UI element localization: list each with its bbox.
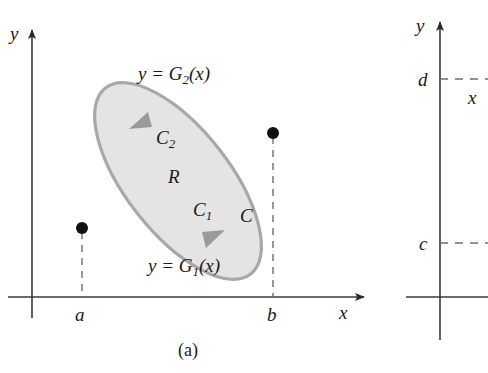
endpoint-dot-left <box>76 222 88 234</box>
region-label-r: R <box>168 167 180 186</box>
panel-a-x-axis-label: x <box>339 303 347 322</box>
equation-upper-boundary: y = G2(x) <box>138 64 210 83</box>
endpoint-dot-right <box>267 127 279 139</box>
panel-a-y-axis-label: y <box>10 24 18 43</box>
curve-label-c2-letter: C <box>156 127 169 148</box>
figure-green-theorem-region: y x a b R C2 C1 C y = G2(x) y = G1(x) (a… <box>0 0 488 373</box>
curve-label-c1-letter: C <box>193 199 206 220</box>
equation-upper-subscript: 2 <box>182 72 189 87</box>
panel-b-y-axis-label: y <box>416 16 424 35</box>
curve-label-c2-subscript: 2 <box>169 136 176 151</box>
y-level-label-c: c <box>419 234 427 253</box>
curve-label-c1-subscript: 1 <box>206 208 213 223</box>
x-bound-label-a: a <box>75 305 85 324</box>
figure-caption: (a) <box>178 341 198 359</box>
equation-lower-boundary: y = G1(x) <box>148 256 220 275</box>
panel-b-variable-label: x <box>468 88 476 107</box>
equation-lower-lhs: y = G <box>148 255 192 276</box>
equation-upper-rhs: (x) <box>189 63 210 84</box>
curve-label-c2: C2 <box>156 128 175 147</box>
figure-canvas <box>0 0 488 373</box>
y-level-label-d: d <box>418 70 428 89</box>
curve-label-c: C <box>240 206 253 225</box>
equation-lower-rhs: (x) <box>199 255 220 276</box>
curve-label-c1: C1 <box>193 200 212 219</box>
x-bound-label-b: b <box>267 305 277 324</box>
equation-lower-subscript: 1 <box>192 264 199 279</box>
equation-upper-lhs: y = G <box>138 63 182 84</box>
